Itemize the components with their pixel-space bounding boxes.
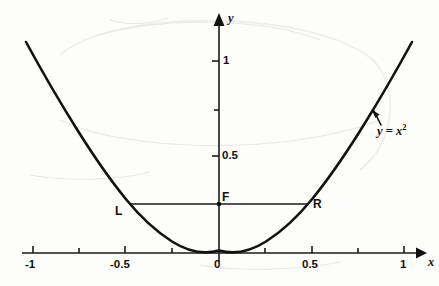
parabola-figure: y x 1 0.5 -1 -0.5 0 0.5 1 L F R y = x2 bbox=[0, 0, 439, 286]
latus-rectum-chord bbox=[131, 202, 308, 207]
x-axis-label: x bbox=[428, 256, 434, 269]
y-tick-label-0.5: 0.5 bbox=[222, 150, 238, 162]
chart-canvas bbox=[0, 0, 439, 286]
point-label-R: R bbox=[313, 198, 322, 210]
scan-artifacts bbox=[30, 18, 390, 269]
equation-exponent: 2 bbox=[402, 122, 406, 132]
y-axis-label: y bbox=[228, 12, 234, 25]
x-tick-label-origin: 0 bbox=[214, 259, 220, 271]
x-tick-label-0.5: 0.5 bbox=[302, 259, 318, 271]
y-tick-label-1: 1 bbox=[223, 55, 229, 67]
x-tick-label-neg-1: -1 bbox=[25, 259, 35, 271]
curve-equation-label: y = x2 bbox=[377, 123, 406, 138]
x-tick-label-1: 1 bbox=[400, 259, 406, 271]
point-label-F: F bbox=[222, 191, 229, 203]
equation-operator: = bbox=[383, 124, 396, 138]
x-tick-label-neg-0.5: -0.5 bbox=[110, 259, 130, 271]
y-axis-ticks bbox=[212, 61, 219, 156]
point-label-L: L bbox=[115, 205, 122, 217]
y-axis bbox=[214, 13, 225, 262]
